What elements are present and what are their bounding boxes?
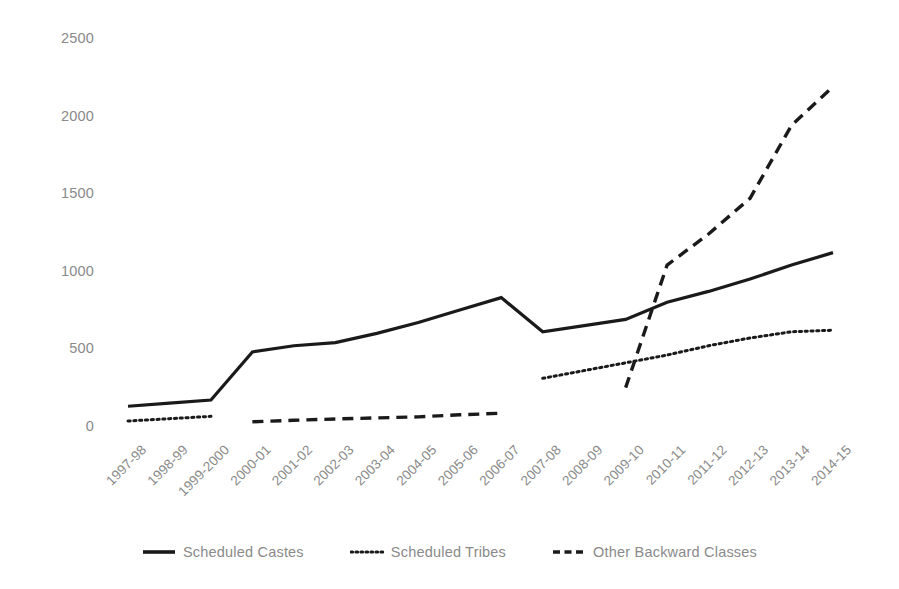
y-axis-tick-label: 500 xyxy=(69,340,94,356)
legend-label: Scheduled Tribes xyxy=(391,544,506,560)
series-line-scheduled-tribes xyxy=(543,330,833,378)
series-line-scheduled-castes xyxy=(128,253,833,407)
series-line-scheduled-tribes xyxy=(128,416,211,421)
legend-label: Scheduled Castes xyxy=(183,544,304,560)
chart-legend: Scheduled CastesScheduled TribesOther Ba… xyxy=(0,537,899,567)
y-axis-tick-label: 1500 xyxy=(61,185,94,201)
y-axis-tick-label: 1000 xyxy=(61,263,94,279)
legend-item[interactable]: Scheduled Castes xyxy=(142,544,304,560)
y-axis-tick-label: 2500 xyxy=(61,30,94,46)
legend-label: Other Backward Classes xyxy=(593,544,757,560)
y-axis-tick-label: 2000 xyxy=(61,108,94,124)
dotted-line-key xyxy=(350,546,384,558)
y-axis-tick-label: 0 xyxy=(86,418,94,434)
dashed-line-key xyxy=(552,546,586,558)
solid-line-key xyxy=(142,546,176,558)
line-chart: 25002000150010005000 1997-981998-991999-… xyxy=(0,0,899,589)
legend-item[interactable]: Other Backward Classes xyxy=(552,544,757,560)
series-line-other-backward-classes xyxy=(252,413,501,422)
legend-item[interactable]: Scheduled Tribes xyxy=(350,544,506,560)
